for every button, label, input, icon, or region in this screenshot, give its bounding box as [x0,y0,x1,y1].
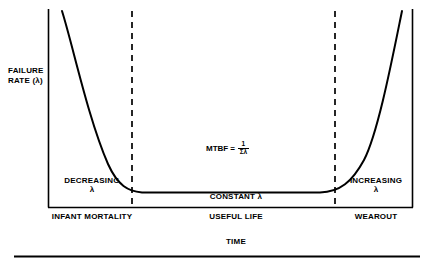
phase-label-useful-life: USEFUL LIFE [186,212,286,221]
x-axis-label: TIME [186,237,286,246]
bathtub-curve-figure: FAILURE RATE (λ) DECREASING λ INCREASING… [0,0,432,265]
bathtub-curve-path [62,11,402,193]
chart-canvas [0,0,432,265]
annotation-increasing: INCREASING λ [341,176,411,195]
phase-label-wearout: WEAROUT [340,212,412,221]
annotation-decreasing-symbol: λ [57,185,127,194]
y-axis-label-line1: FAILURE [8,66,44,75]
mtbf-denominator: Σλ [239,149,249,156]
annotation-decreasing: DECREASING λ [57,176,127,195]
phase-label-infant-mortality: INFANT MORTALITY [44,212,140,221]
annotation-mtbf-formula: MTBF = 1 Σλ [206,141,249,157]
y-axis-label: FAILURE RATE (λ) [8,66,44,87]
annotation-increasing-symbol: λ [341,185,411,194]
y-axis-label-line2: RATE (λ) [8,76,44,86]
annotation-decreasing-text: DECREASING [64,176,119,185]
annotation-constant: CONSTANT λ [186,192,286,201]
annotation-increasing-text: INCREASING [350,176,402,185]
mtbf-fraction: 1 Σλ [238,141,249,157]
mtbf-label: MTBF [206,144,228,153]
mtbf-numerator: 1 [241,141,247,148]
mtbf-equals-sign: = [230,144,235,153]
